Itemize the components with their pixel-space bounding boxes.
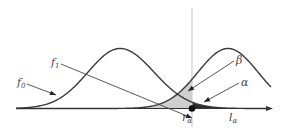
hypothesis-test-diagram: f0 f1 β α rα lα bbox=[0, 0, 290, 132]
label-f0: f0 bbox=[16, 76, 26, 90]
label-r-alpha: rα bbox=[182, 111, 192, 125]
pointer-alpha bbox=[204, 83, 239, 102]
pointer-f0 bbox=[27, 84, 56, 95]
label-l-alpha: lα bbox=[229, 111, 238, 125]
label-beta: β bbox=[235, 54, 242, 67]
label-f1: f1 bbox=[50, 56, 60, 70]
arrowhead-icon bbox=[204, 97, 210, 102]
arrowhead-icon bbox=[50, 91, 56, 95]
label-alpha: α bbox=[241, 76, 249, 89]
beta-region bbox=[120, 79, 192, 108]
threshold-point bbox=[189, 105, 196, 112]
axis-arrow-icon bbox=[266, 106, 273, 111]
